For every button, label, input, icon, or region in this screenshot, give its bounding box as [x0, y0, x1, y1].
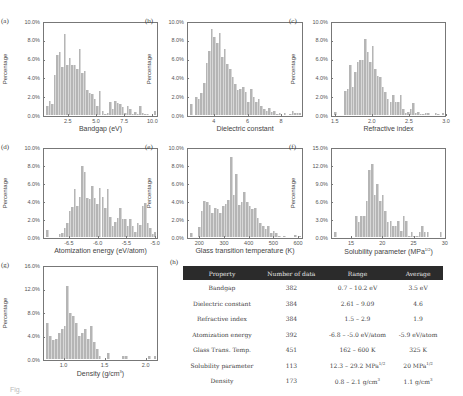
cell-property: Bandgap [183, 280, 261, 296]
x-tick-label: 15 [341, 240, 361, 246]
table-row: Bandgap3820.7 – 10.2 eV3.5 eV [183, 280, 443, 296]
y-tick-mark [43, 220, 45, 221]
y-tick-mark [187, 116, 189, 117]
y-tick-label: 2.0% [154, 217, 184, 223]
cell-property: Atomization energy [183, 327, 261, 343]
y-tick-mark [331, 166, 333, 167]
y-tick-label: 2.0% [10, 217, 40, 223]
x-tick-label: 500 [263, 240, 283, 246]
x-tick-mark [335, 114, 336, 116]
y-tick-mark [43, 337, 45, 338]
cell-range-superscript: 1/2 [379, 361, 385, 366]
y-tick-mark [331, 238, 333, 239]
y-tick-label: 6.0% [298, 199, 328, 205]
x-tick-label: 6 [238, 118, 258, 124]
cell-property-text: Atomization energy [192, 331, 251, 338]
cell-average-text: 325 K [409, 346, 427, 353]
histogram-bar [442, 113, 444, 115]
cell-range-superscript: 3 [378, 377, 381, 382]
histogram-bar [284, 113, 287, 115]
y-tick-label: 6.0% [298, 56, 328, 62]
plot-area [331, 22, 446, 117]
histogram-bar [148, 356, 151, 359]
cell-property: Glass Trans. Temp. [183, 342, 261, 358]
cell-range-text: 0.8 – 2.1 g/cm [335, 378, 378, 385]
cell-property: Solubility parameter [183, 358, 261, 374]
y-tick-label: 2.0% [298, 94, 328, 100]
x-tick-mark [281, 114, 282, 116]
y-tick-mark [331, 220, 333, 221]
x-tick-label: 2.0 [136, 362, 156, 368]
y-tick-mark [43, 360, 45, 361]
table-row: Density1730.8 – 2.1 g/cm31.1 g/cm3 [183, 373, 443, 389]
y-tick-mark [43, 266, 45, 267]
cell-average: 20 MPa1/2 [393, 358, 443, 374]
cell-average-superscript: 1/2 [426, 361, 432, 366]
histogram-bar [334, 232, 337, 237]
x-tick-mark [214, 114, 215, 116]
y-tick-label: 10.0% [298, 19, 328, 25]
y-tick-mark [331, 148, 333, 149]
y-tick-label: 12.0% [298, 163, 328, 169]
y-tick-label: 15.0% [298, 145, 328, 151]
y-tick-mark [43, 22, 45, 23]
cell-count-text: 113 [286, 362, 297, 369]
x-tick-mark [446, 114, 447, 116]
cell-property-text: Solubility parameter [191, 362, 254, 369]
histogram-bar [278, 236, 281, 237]
header-range: Range [322, 266, 393, 280]
x-tick-mark [409, 114, 410, 116]
y-tick-label: 10.0% [10, 145, 40, 151]
histogram-bar [190, 104, 193, 115]
y-tick-label: 4.0% [154, 199, 184, 205]
y-tick-mark [43, 202, 45, 203]
x-tick-mark [64, 358, 65, 360]
x-tick-label: 25 [404, 240, 424, 246]
cell-property: Dielectric constant [183, 296, 261, 312]
cell-average-text: 1.1 g/cm [404, 378, 430, 385]
cell-count: 384 [261, 296, 322, 312]
y-tick-mark [43, 41, 45, 42]
y-tick-mark [187, 166, 189, 167]
cell-property-text: Dielectric constant [193, 300, 251, 307]
y-tick-label: 2.0% [10, 94, 40, 100]
panel-letter-e: (e) [145, 143, 153, 151]
x-tick-label: 4 [204, 118, 224, 124]
y-tick-label: 10.0% [154, 145, 184, 151]
y-tick-label: 4.0% [154, 75, 184, 81]
y-tick-mark [187, 220, 189, 221]
header-number-of-data: Number of data [261, 266, 322, 280]
cell-average: 4.6 [393, 296, 443, 312]
cell-average: -5.9 eV/atom [393, 327, 443, 343]
y-tick-mark [187, 60, 189, 61]
y-tick-label: 0.0% [154, 235, 184, 241]
y-tick-mark [187, 238, 189, 239]
x-tick-label: 7.5 [114, 118, 134, 124]
y-tick-label: 6.0% [10, 56, 40, 62]
y-tick-label: 8.0% [154, 37, 184, 43]
cell-count: 113 [261, 358, 322, 374]
y-tick-mark [43, 148, 45, 149]
x-axis-label: Density (g/cm3) [43, 369, 158, 377]
y-tick-label: 12.0% [10, 286, 40, 292]
y-tick-label: 6.0% [154, 56, 184, 62]
y-tick-label: 2.0% [154, 94, 184, 100]
cell-range-text: 162 – 600 K [339, 346, 375, 353]
x-tick-mark [96, 114, 97, 116]
table-row: Glass Trans. Temp.451162 – 600 K325 K [183, 342, 443, 358]
y-tick-mark [43, 116, 45, 117]
y-axis-label: Percentage [2, 283, 8, 343]
histogram-bar [154, 356, 156, 359]
x-tick-mark [68, 114, 69, 116]
cell-range-text: 0.7 – 10.2 eV [338, 284, 378, 291]
y-tick-label: 8.0% [154, 163, 184, 169]
y-tick-mark [43, 97, 45, 98]
x-tick-label: 20 [372, 240, 392, 246]
property-summary-table: Property Number of data Range Average Ba… [183, 266, 443, 389]
y-tick-mark [43, 166, 45, 167]
histogram-bar [46, 230, 49, 237]
x-tick-mark [224, 236, 225, 238]
x-tick-label: 600 [288, 240, 308, 246]
y-axis-label: Percentage [146, 39, 152, 99]
cell-range-text: 2.61 – 9.09 [341, 300, 375, 307]
